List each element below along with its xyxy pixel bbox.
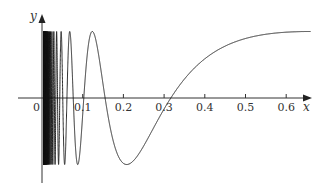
origin-label: 0 [33, 101, 40, 114]
x-axis: x 0 0.10.20.30.40.50.6 [18, 94, 312, 114]
x-tick-label: 0.3 [155, 101, 173, 114]
x-tick-label: 0.5 [237, 101, 255, 114]
y-axis: y [29, 9, 46, 183]
x-tick-label: 0.4 [196, 101, 214, 114]
y-axis-label: y [29, 9, 37, 23]
x-tick-label: 0.2 [115, 101, 133, 114]
chart: x 0 0.10.20.30.40.50.6 y [0, 0, 328, 192]
y-axis-arrow-icon [39, 14, 46, 23]
x-axis-label: x [303, 100, 310, 114]
x-tick-label: 0.6 [277, 101, 295, 114]
